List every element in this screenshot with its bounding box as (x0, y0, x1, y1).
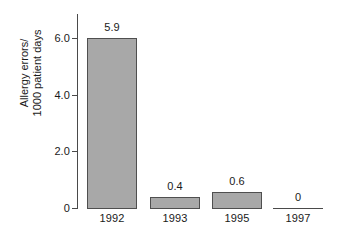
y-tick-mark-2 (72, 151, 77, 152)
y-tick-mark-0 (72, 208, 77, 209)
y-tick-label-6: 6.0 (54, 32, 70, 44)
y-tick-label-wrap-4: 4.0 (0, 89, 70, 101)
category-label-1993: 1993 (150, 212, 200, 224)
category-label-1995: 1995 (212, 212, 262, 224)
y-tick-label-0: 0 (64, 202, 70, 214)
y-axis-title-line-2: 1000 patient days (31, 0, 44, 149)
y-tick-mark-4 (72, 95, 77, 96)
y-tick-mark-6 (72, 38, 77, 39)
bar-1992 (87, 38, 137, 209)
y-axis-title-line-1: Allergy errors/ (18, 0, 31, 149)
y-tick-label-wrap-0: 0 (0, 202, 70, 214)
y-tick-label-wrap-2: 2.0 (0, 145, 70, 157)
y-tick-label-2: 2.0 (54, 145, 70, 157)
category-label-1992: 1992 (87, 212, 137, 224)
value-label-1993: 0.4 (150, 180, 200, 192)
bar-1995 (212, 192, 262, 209)
value-label-1997: 0 (273, 191, 323, 203)
y-axis-line (77, 14, 78, 209)
value-label-1995: 0.6 (212, 175, 262, 187)
category-label-1997: 1997 (273, 212, 323, 224)
y-tick-label-wrap-6: 6.0 (0, 32, 70, 44)
bar-chart: Allergy errors/ 1000 patient days 6.0 4.… (0, 0, 337, 238)
y-tick-label-4: 4.0 (54, 89, 70, 101)
y-axis-title: Allergy errors/ 1000 patient days (18, 0, 44, 149)
value-label-1992: 5.9 (87, 21, 137, 33)
bar-1993 (150, 197, 200, 209)
bar-1997-zero-baseline (273, 208, 323, 209)
